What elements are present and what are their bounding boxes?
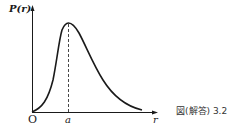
figure-caption: 図(解答) 3.2 [176, 107, 227, 116]
x-axis-label: r [153, 115, 158, 125]
origin-label: O [28, 114, 37, 125]
peak-marker-label: a [65, 115, 71, 125]
y-axis-label: P(r) [9, 4, 31, 14]
probability-curve [32, 23, 142, 112]
